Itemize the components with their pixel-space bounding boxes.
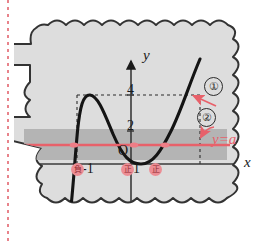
page-margin-dotted-rule (7, 0, 9, 243)
y-tick-label-4: 4 (127, 83, 134, 97)
plot-area (14, 19, 264, 224)
x-axis-label: x (244, 155, 251, 170)
x-tick-label-1: 1 (133, 162, 140, 176)
origin-label: O (118, 144, 128, 158)
callout-arrow-1 (194, 96, 216, 106)
y-axis-label: y (143, 48, 150, 63)
sign-marker-left: 負 (71, 163, 84, 176)
sign-marker-right: 正 (149, 163, 162, 176)
line-label-y-equals-a: y=a (212, 132, 236, 147)
callout-badge-2: ② (197, 108, 216, 127)
callout-badge-1: ① (204, 77, 223, 96)
figure-stage: y x O 4 2 -1 1 y=a ① ② 負 正 正 (0, 0, 280, 243)
sign-marker-middle: 正 (121, 163, 134, 176)
y-tick-label-2: 2 (127, 119, 134, 133)
